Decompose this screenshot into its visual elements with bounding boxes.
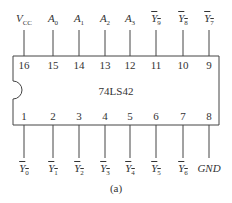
pin-label-y9-bar: Y9 bbox=[151, 12, 161, 27]
pin-number-6: 6 bbox=[153, 110, 159, 122]
pin-label-y2-bar: Y2 bbox=[74, 162, 84, 177]
pin-label-a3: A3 bbox=[125, 12, 135, 27]
pin-number-7: 7 bbox=[180, 110, 186, 122]
pin-label-y7-bar: Y7 bbox=[204, 12, 214, 27]
pin-number-12: 12 bbox=[125, 59, 136, 71]
pin-label-vcc: VCC bbox=[16, 12, 32, 27]
pin-number-4: 4 bbox=[102, 110, 108, 122]
pin-number-11: 11 bbox=[151, 59, 162, 71]
pin-number-2: 2 bbox=[50, 110, 56, 122]
pin-number-10: 10 bbox=[178, 59, 189, 71]
pin-label-y8-bar: Y8 bbox=[178, 12, 188, 27]
pin-number-16: 16 bbox=[19, 59, 30, 71]
pin-label-a1: A1 bbox=[74, 12, 84, 27]
pin-label-a2: A2 bbox=[100, 12, 110, 27]
pin-number-9: 9 bbox=[206, 59, 212, 71]
pin-label-y1-bar: Y1 bbox=[48, 162, 58, 177]
pin-label-y6-bar: Y6 bbox=[178, 162, 188, 177]
pin-number-15: 15 bbox=[48, 59, 59, 71]
pin-label-a0: A0 bbox=[48, 12, 58, 27]
pin-number-13: 13 bbox=[100, 59, 111, 71]
pin-label-y3-bar: Y3 bbox=[100, 162, 110, 177]
pin-label-y0-bar: Y0 bbox=[19, 162, 29, 177]
pin-label-y5-bar: Y5 bbox=[151, 162, 161, 177]
figure-caption: (a) bbox=[110, 182, 122, 194]
pin-label-gnd: GND bbox=[197, 162, 220, 174]
chip-name: 74LS42 bbox=[99, 85, 134, 97]
pin-number-5: 5 bbox=[127, 110, 133, 122]
pin-number-14: 14 bbox=[74, 59, 85, 71]
pin-number-8: 8 bbox=[206, 110, 212, 122]
pin-number-1: 1 bbox=[21, 110, 27, 122]
pin-number-3: 3 bbox=[76, 110, 82, 122]
pin-label-y4-bar: Y4 bbox=[125, 162, 135, 177]
